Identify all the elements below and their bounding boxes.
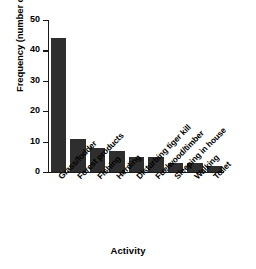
bar: [51, 38, 67, 172]
x-axis-tick-label: Grass/fodder: [56, 174, 63, 181]
x-axis-tick-label: Fuelwood/timber: [153, 174, 160, 181]
y-axis-title: Frequency (number of people): [12, 0, 28, 105]
x-axis-tick-labels: Grass/fodderForest productsFishingHerdin…: [48, 174, 256, 238]
x-axis-tick-label: Forest products: [75, 174, 82, 181]
x-axis-title: Activity: [0, 245, 256, 256]
y-axis-tick-label: 40: [30, 43, 40, 55]
y-axis-tick: 20: [43, 111, 48, 112]
y-axis-tick: 0: [43, 172, 48, 173]
x-axis-tick-label: Disturbing tiger kill: [134, 174, 141, 181]
y-axis-tick-label: 20: [30, 104, 40, 116]
x-axis-tick-label: Toilet: [211, 174, 218, 181]
x-axis-tick-label: Walking: [192, 174, 199, 181]
y-axis-tick-label: 10: [30, 135, 40, 147]
y-axis-tick-label: 50: [30, 13, 40, 25]
y-axis-tick-label: 30: [30, 74, 40, 86]
y-axis-tick: 40: [43, 50, 48, 51]
y-axis-tick: 10: [43, 142, 48, 143]
x-axis-tick-label: Herding: [114, 174, 121, 181]
bar-chart-figure: Frequency (number of people) 01020304050…: [0, 0, 256, 269]
y-axis-tick: 30: [43, 81, 48, 82]
y-axis-tick: 50: [43, 20, 48, 21]
x-axis-tick-label: Sleeping in house: [172, 174, 179, 181]
x-axis-tick-label: Fishing: [95, 174, 102, 181]
y-axis-tick-label: 0: [35, 165, 40, 177]
